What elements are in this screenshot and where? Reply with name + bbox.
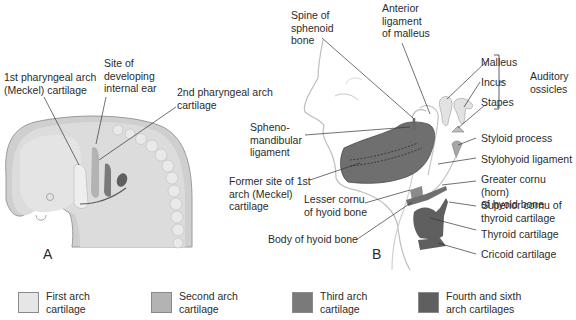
label-cricoid-cartilage: Cricoid cartilage: [481, 248, 556, 261]
label-second-pharyngeal-arch: 2nd pharyngeal arch cartilage: [177, 86, 273, 111]
label-developing-internal-ear: Site of developing internal ear: [104, 57, 157, 95]
label-first-pharyngeal-arch: 1st pharyngeal arch (Meckel) cartilage: [4, 71, 96, 96]
legend-label: Third arch cartilage: [320, 290, 430, 316]
label-stylohyoid-ligament: Stylohyoid ligament: [481, 153, 572, 166]
legend-swatch: [18, 292, 39, 313]
legend-swatch: [418, 292, 439, 313]
label-superior-cornu-thyroid: Superior cornu of thyroid cartilage: [481, 199, 562, 224]
panel-label-a: A: [43, 246, 52, 262]
label-incus: Incus: [481, 76, 506, 89]
legend-label: Second arch cartilage: [179, 290, 289, 316]
label-spine-sphenoid: Spine of sphenoid bone: [291, 9, 334, 47]
label-auditory-ossicles: Auditory ossicles: [530, 70, 569, 95]
legend-swatch: [151, 292, 172, 313]
label-stapes: Stapes: [481, 96, 514, 109]
label-former-meckel-site: Former site of 1st arch (Meckel) cartila…: [229, 175, 311, 213]
legend-label: First arch cartilage: [46, 290, 156, 316]
panel-label-b: B: [372, 246, 381, 262]
label-thyroid-cartilage: Thyroid cartilage: [481, 228, 559, 241]
label-lesser-cornu-hyoid: Lesser cornu of hyoid bone: [304, 193, 367, 218]
label-anterior-ligament-malleus: Anterior ligament of malleus: [382, 2, 430, 40]
label-body-hyoid: Body of hyoid bone: [268, 233, 358, 246]
label-malleus: Malleus: [481, 56, 517, 69]
legend-swatch: [292, 292, 313, 313]
legend: First arch cartilage Second arch cartila…: [0, 290, 576, 320]
embryo-illustration: [6, 97, 192, 248]
label-styloid-process: Styloid process: [481, 132, 552, 145]
label-sphenomandibular-ligament: Spheno- mandibular ligament: [250, 121, 302, 159]
legend-label: Fourth and sixth arch cartilages: [446, 290, 556, 316]
